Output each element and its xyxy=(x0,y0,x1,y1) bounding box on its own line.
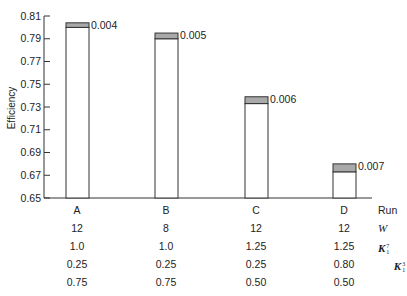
bars: 0.0040.0050.0060.007 xyxy=(66,19,384,198)
table-cell: 0.50 xyxy=(324,276,364,288)
bar-c: 0.006 xyxy=(245,93,296,198)
row-label-run: Run xyxy=(378,204,397,216)
category-label: B xyxy=(146,204,186,216)
row-label-w: W xyxy=(378,222,387,234)
bar-band xyxy=(66,23,89,28)
y-tick-label: 0.69 xyxy=(21,146,42,158)
y-axis-label: Efficiency xyxy=(6,87,17,130)
row-label-k7: K71 xyxy=(378,242,389,255)
table-cell: 0.80 xyxy=(324,258,364,270)
table-cell: 12 xyxy=(324,222,364,234)
bar-band xyxy=(155,33,178,39)
table-cell: 8 xyxy=(146,222,186,234)
bar-a: 0.004 xyxy=(66,19,117,198)
bar-annotation: 0.006 xyxy=(270,93,296,105)
category-label: C xyxy=(236,204,276,216)
y-tick-label: 0.65 xyxy=(21,192,42,204)
bar-band xyxy=(245,97,268,104)
table-cell: 0.25 xyxy=(57,258,97,270)
table-cell: 0.25 xyxy=(146,258,186,270)
table-cell: 1.25 xyxy=(324,240,364,252)
bar-b: 0.005 xyxy=(155,29,206,198)
bar-d: 0.007 xyxy=(333,160,384,198)
y-tick-label: 0.77 xyxy=(21,55,42,67)
table-cell: 0.75 xyxy=(146,276,186,288)
table-cell: 1.0 xyxy=(57,240,97,252)
category-label: D xyxy=(324,204,364,216)
y-tick-label: 0.81 xyxy=(21,10,42,22)
table-cell: 12 xyxy=(236,222,276,234)
bar-base xyxy=(155,39,178,198)
bar-band xyxy=(333,164,356,172)
bar-annotation: 0.005 xyxy=(180,29,206,41)
table-cell: 1.25 xyxy=(236,240,276,252)
y-tick-label: 0.67 xyxy=(21,169,42,181)
y-tick-label: 0.75 xyxy=(21,78,42,90)
y-tick-label: 0.79 xyxy=(21,32,42,44)
bar-annotation: 0.007 xyxy=(358,160,384,172)
table-cell: 0.75 xyxy=(57,276,97,288)
bar-base xyxy=(333,172,356,198)
bar-base xyxy=(66,27,89,198)
row-label-k3: K31 xyxy=(394,260,405,273)
y-tick-label: 0.71 xyxy=(21,123,42,135)
table-cell: 12 xyxy=(57,222,97,234)
table-cell: 0.25 xyxy=(236,258,276,270)
category-label: A xyxy=(57,204,97,216)
table-cell: 1.0 xyxy=(146,240,186,252)
bar-base xyxy=(245,104,268,198)
table-cell: 0.50 xyxy=(236,276,276,288)
bar-annotation: 0.004 xyxy=(91,19,117,31)
y-tick-label: 0.73 xyxy=(21,101,42,113)
